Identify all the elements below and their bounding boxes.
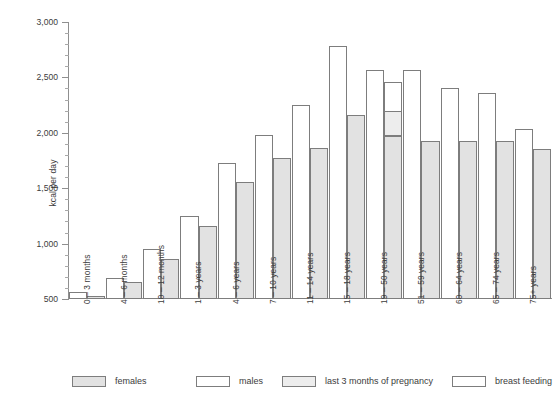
- chart-legend: femalesmaleslast 3 months of pregnancybr…: [0, 372, 559, 394]
- y-tick-major: [62, 299, 69, 300]
- y-tick-label: 2,000: [12, 128, 58, 138]
- x-axis-label: 7 – 10 years: [268, 257, 278, 304]
- legend-item: last 3 months of pregnancy: [282, 372, 433, 390]
- bar-segment-pregnancy: [384, 111, 402, 136]
- y-tick-label-text: 1,500: [14, 183, 58, 193]
- legend-item: females: [72, 372, 147, 390]
- y-tick-label-text: 3,000: [14, 17, 58, 27]
- y-tick-label-text: 2,500: [14, 72, 58, 82]
- bar-group: [218, 22, 255, 299]
- bar-group: [515, 22, 552, 299]
- y-tick-label: 2,500: [12, 72, 58, 82]
- y-tick-label-text: 2,000: [14, 128, 58, 138]
- x-axis-label: 60 – 64 years: [454, 252, 464, 304]
- legend-swatch-breast: [452, 376, 486, 387]
- y-tick-label: 1,500: [12, 183, 58, 193]
- bar-chart: kcal per day 3,0002,5002,0001,5001,00050…: [0, 0, 559, 400]
- y-tick-major: [62, 77, 69, 78]
- legend-swatch-pregnancy: [282, 376, 316, 387]
- y-tick-label-text: 1,000: [14, 239, 58, 249]
- x-axis-label: 10 – 12 months: [156, 245, 166, 304]
- x-axis-label: 1 – 3 years: [193, 261, 203, 304]
- y-tick-label: 3,000: [12, 17, 58, 27]
- y-tick-label: 500: [12, 294, 58, 304]
- x-axis-label: 75+ years: [528, 266, 538, 304]
- legend-swatch-females: [72, 376, 106, 387]
- legend-label: females: [115, 376, 147, 386]
- bar-group: [180, 22, 217, 299]
- x-axis-label: 15 – 18 years: [342, 252, 352, 304]
- legend-item: males: [196, 372, 263, 390]
- x-axis-label: 4 – 6 years: [231, 261, 241, 304]
- y-tick-major: [62, 188, 69, 189]
- x-axis-label: 51 – 59 years: [416, 252, 426, 304]
- y-tick-label: 1,000: [12, 239, 58, 249]
- legend-swatch-males: [196, 376, 230, 387]
- y-tick-major: [62, 22, 69, 23]
- legend-label: last 3 months of pregnancy: [325, 376, 433, 386]
- x-axis-label: 0 – 3 months: [82, 254, 92, 304]
- legend-label: breast feeding: [495, 376, 552, 386]
- x-axis-label: 11 – 14 years: [305, 253, 315, 304]
- y-tick-label-text: 500: [14, 294, 58, 304]
- x-axis-label: 19 – 50 years: [379, 252, 389, 304]
- legend-label: males: [239, 376, 263, 386]
- legend-item: breast feeding: [452, 372, 552, 390]
- y-tick-major: [62, 244, 69, 245]
- x-axis-label: 4 – 6 months: [119, 254, 129, 304]
- y-tick-major: [62, 133, 69, 134]
- x-axis-label: 65 – 74 years: [491, 252, 501, 304]
- bar-segment-breast-feeding: [384, 82, 402, 112]
